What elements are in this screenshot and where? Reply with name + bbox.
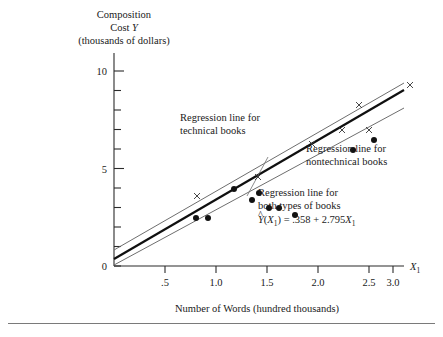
data-point-dot [231, 186, 237, 192]
annotation-both-line1: Regression line for [258, 187, 338, 198]
data-point-dot [249, 197, 255, 203]
x-tick-label-3: 2.0 [311, 277, 324, 288]
y-axis-header-line1: Composition [97, 9, 152, 20]
x-axis-ticks [165, 266, 393, 273]
equation-body: ) = .358 + 2.795 [278, 214, 346, 226]
footer-divider [8, 323, 435, 324]
x-tick-label-4: 2.5 [362, 277, 375, 288]
annotation-technical-line1: Regression line for [180, 112, 260, 123]
y-axis-header-cost-text: Cost [110, 22, 132, 33]
data-point-cross [407, 82, 413, 88]
y-axis-header-line2: Cost Y [110, 22, 139, 33]
data-point-dot [205, 215, 211, 221]
data-point-cross [366, 127, 372, 133]
annotation-both-equation: Y(X1) = .358 + 2.795X1 [258, 214, 356, 228]
x-axis-caption: Number of Words (hundred thousands) [175, 303, 340, 315]
x-axis-variable: X1 [409, 261, 420, 275]
y-axis-ticks [114, 71, 124, 266]
y-axis-header-line3: (thousands of dollars) [78, 35, 170, 47]
annotation-technical-line2: technical books [180, 125, 246, 136]
x-tick-label-5: 3.0 [386, 277, 399, 288]
data-point-cross [194, 193, 200, 199]
annotation-nontechnical-line1: Regression line for [306, 143, 386, 154]
annotation-both-line2: both types of books [258, 200, 341, 211]
data-point-cross [339, 127, 345, 133]
y-axis-header-cost-var: Y [132, 22, 139, 33]
y-tick-label-0: 0 [102, 261, 107, 272]
equation-tail-subscript: 1 [352, 219, 356, 228]
data-point-cross [356, 102, 362, 108]
y-tick-label-10: 10 [97, 66, 108, 77]
data-point-dot [193, 215, 199, 221]
equation-hat-accent: ^ [258, 209, 263, 220]
annotation-nontechnical-line2: nontechnical books [306, 156, 387, 167]
x-tick-label-0: .5 [161, 277, 169, 288]
regression-scatter-figure: Composition Cost Y (thousands of dollars… [0, 0, 443, 337]
y-tick-label-5: 5 [102, 164, 107, 175]
x-tick-label-2: 1.5 [260, 277, 273, 288]
chart-canvas: Composition Cost Y (thousands of dollars… [0, 0, 443, 337]
x-tick-label-1: 1.0 [209, 277, 222, 288]
x-axis-variable-subscript: 1 [416, 266, 420, 275]
